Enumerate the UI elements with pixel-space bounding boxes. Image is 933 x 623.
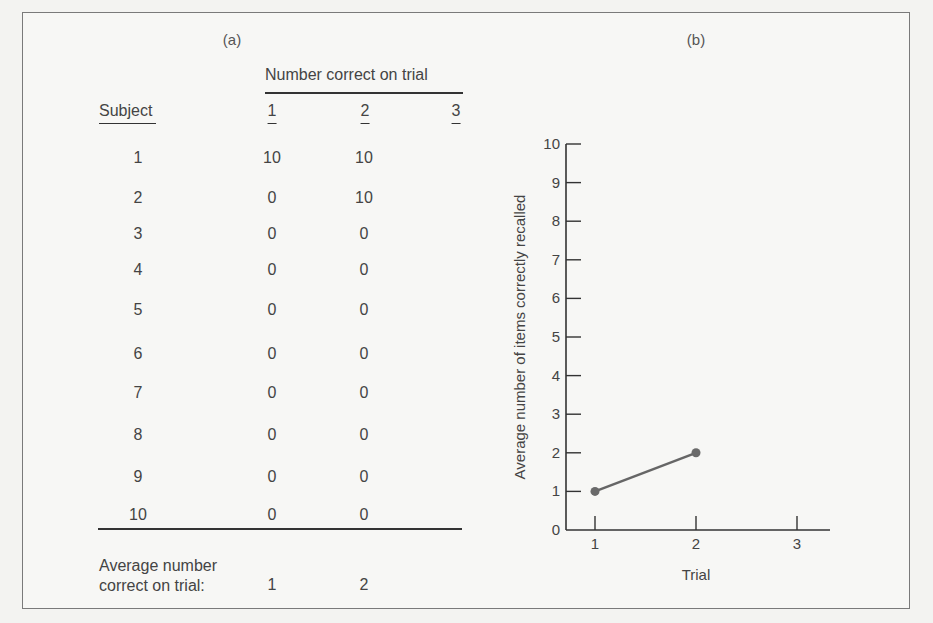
data-line: [595, 453, 696, 492]
x-tick-label: 1: [591, 535, 599, 552]
y-tick-label: 2: [552, 444, 560, 461]
data-point-marker: [692, 448, 701, 457]
chart-axes: [566, 144, 830, 530]
y-tick-label: 0: [552, 521, 560, 538]
y-axis-label: Average number of items correctly recall…: [511, 195, 528, 480]
y-tick-label: 7: [552, 251, 560, 268]
y-tick-label: 10: [543, 135, 560, 152]
y-tick-label: 8: [552, 212, 560, 229]
y-tick-label: 4: [552, 367, 560, 384]
y-tick-label: 5: [552, 328, 560, 345]
data-point-marker: [591, 487, 600, 496]
x-tick-label: 3: [793, 535, 801, 552]
line-chart: 012345678910123 Average number of items …: [0, 0, 933, 623]
chart-series: [591, 448, 701, 496]
x-axis-label: Trial: [682, 566, 711, 583]
y-tick-label: 9: [552, 174, 560, 191]
x-tick-label: 2: [692, 535, 700, 552]
chart-ticks: 012345678910123: [543, 135, 801, 552]
y-tick-label: 3: [552, 405, 560, 422]
y-tick-label: 6: [552, 289, 560, 306]
y-tick-label: 1: [552, 482, 560, 499]
